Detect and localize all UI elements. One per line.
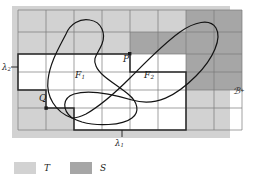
figure-root: P Q F1 F2 λ1 λ2 ℬ+ T S [0, 0, 259, 190]
label-axis-lambda2-subscript: 2 [8, 66, 11, 72]
legend-label-t: T [44, 164, 50, 173]
label-axis-lambda1-subscript: 1 [121, 142, 124, 148]
label-region-boundary: ℬ+ [233, 87, 245, 96]
label-axis-lambda2-base: λ [2, 62, 7, 72]
label-face-f2: F2 [144, 71, 154, 81]
label-axis-lambda1: λ1 [115, 139, 124, 148]
label-point-p: P [123, 55, 129, 64]
label-region-boundary-superscript: + [240, 87, 245, 93]
legend: T S [14, 162, 126, 174]
label-face-f1: F1 [75, 71, 85, 81]
label-face-f2-subscript: 2 [150, 74, 154, 80]
label-face-f1-subscript: 1 [81, 74, 85, 80]
legend-swatch-s [70, 162, 92, 174]
white-cell [46, 90, 74, 108]
label-point-q: Q [39, 94, 46, 103]
legend-entry-t: T [14, 162, 70, 174]
legend-swatch-t [14, 162, 36, 174]
legend-label-s: S [100, 164, 106, 173]
legend-entry-s: S [70, 162, 126, 174]
point-q-marker [44, 106, 47, 109]
label-axis-lambda1-base: λ [115, 138, 120, 148]
label-region-boundary-base: ℬ [233, 86, 240, 96]
label-axis-lambda2: λ2 [2, 63, 11, 72]
